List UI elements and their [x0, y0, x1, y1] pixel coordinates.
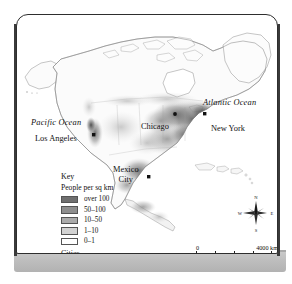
- map-figure: Pacific Ocean Atlantic Ocean Los Angeles…: [0, 0, 292, 284]
- legend-label-0-1: 0–1: [84, 237, 95, 246]
- scale-tick: [215, 251, 216, 254]
- legend-item-50-100: 50–100: [61, 206, 186, 215]
- legend-swatch-1-10: [61, 227, 78, 235]
- ocean-label-pacific: Pacific Ocean: [31, 119, 81, 127]
- compass-rose-icon: N S E W: [235, 192, 277, 236]
- city-marker-los-angeles: [92, 133, 95, 136]
- city-label-los-angeles: Los Angeles: [35, 135, 77, 143]
- legend-swatch-0-1: [61, 238, 78, 246]
- legend-item-0-1: 0–1: [61, 237, 186, 246]
- scale-km-bar: [196, 251, 272, 254]
- legend-label-1-10: 1–10: [84, 227, 98, 236]
- scale-km-labels: 0 4000 km: [196, 244, 278, 251]
- city-marker-new-york: [203, 112, 206, 115]
- compass-east-label: E: [271, 211, 274, 216]
- key-title: Key: [61, 172, 186, 182]
- ocean-label-atlantic: Atlantic Ocean: [203, 99, 256, 107]
- legend-item-10-50: 10–50: [61, 216, 186, 225]
- figure-shelf: [14, 252, 286, 272]
- city-label-chicago: Chicago: [141, 123, 169, 131]
- legend-item-1-10: 1–10: [61, 227, 186, 236]
- scale-km-end: 4000 km: [256, 244, 278, 251]
- legend-swatch-10-50: [61, 217, 78, 225]
- scale-km-start: 0: [196, 244, 199, 251]
- legend-label-over-100: over 100: [84, 195, 109, 204]
- legend-label-50-100: 50–100: [84, 206, 106, 215]
- compass-west-label: W: [238, 211, 243, 216]
- map-key: Key People per sq km over 100 50–100 10–…: [61, 172, 186, 254]
- compass-north-label: N: [254, 195, 258, 200]
- legend-label-10-50: 10–50: [84, 216, 102, 225]
- map-frame: Pacific Ocean Atlantic Ocean Los Angeles…: [16, 14, 278, 254]
- key-subtitle: People per sq km: [61, 183, 186, 193]
- scale-tick: [253, 251, 254, 254]
- legend-swatch-50-100: [61, 206, 78, 214]
- compass-south-label: S: [255, 228, 258, 233]
- key-cities-title: Cities: [61, 249, 186, 255]
- city-marker-chicago: [173, 112, 177, 116]
- scale-bar: 0 4000 km 0 2000 miles: [196, 244, 278, 254]
- scale-tick: [234, 251, 235, 254]
- legend-item-over-100: over 100: [61, 195, 186, 204]
- legend-swatch-over-100: [61, 196, 78, 204]
- city-label-new-york: New York: [211, 125, 245, 133]
